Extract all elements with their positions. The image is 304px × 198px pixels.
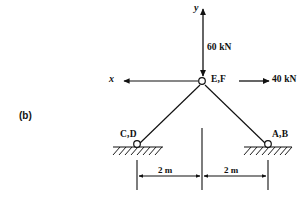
free-body-diagram-graphics — [0, 0, 304, 198]
right-support-pin — [265, 141, 272, 148]
member-ef-to-cd — [139, 85, 200, 144]
force-60kn-label: 60 kN — [207, 43, 232, 53]
apex-pin-joint — [199, 78, 206, 85]
x-axis-label: x — [109, 74, 114, 84]
left-support-label: C,D — [120, 130, 137, 140]
y-axis-label: y — [194, 3, 198, 13]
member-ef-to-ab — [205, 85, 266, 144]
dimension-label-right: 2 m — [224, 166, 238, 175]
part-label: (b) — [19, 111, 32, 121]
right-support-label: A,B — [272, 130, 288, 140]
left-support-pin — [134, 141, 141, 148]
force-40kn-label: 40 kN — [272, 75, 297, 85]
ground-hatching-left — [113, 147, 162, 155]
apex-node-label: E,F — [211, 75, 226, 85]
ground-hatching-right — [244, 147, 292, 155]
figure-container: y x 60 kN 40 kN E,F C,D A,B 2 m 2 m (b) — [0, 0, 304, 198]
dimension-label-left: 2 m — [158, 166, 172, 175]
